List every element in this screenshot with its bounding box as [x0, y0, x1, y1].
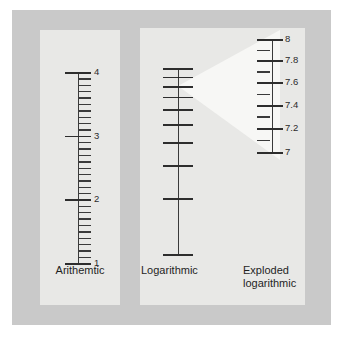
minor-tick	[78, 257, 91, 258]
major-tick	[163, 77, 193, 79]
tick-label: 7.6	[285, 77, 298, 87]
minor-tick	[78, 97, 91, 98]
minor-tick	[78, 148, 91, 149]
tick-label: 7.8	[285, 55, 298, 65]
minor-tick	[78, 218, 91, 219]
major-tick	[163, 142, 193, 144]
major-tick	[65, 72, 91, 74]
minor-tick	[78, 104, 91, 105]
tick-label: 7	[285, 147, 290, 157]
minor-tick	[257, 50, 270, 51]
major-tick	[163, 124, 193, 126]
major-tick	[163, 68, 193, 70]
minor-tick	[78, 238, 91, 239]
major-tick	[257, 105, 283, 107]
major-tick	[163, 165, 193, 167]
minor-tick	[78, 161, 91, 162]
minor-tick	[78, 231, 91, 232]
minor-tick	[257, 94, 270, 95]
minor-tick	[78, 155, 91, 156]
minor-tick	[78, 142, 91, 143]
minor-tick	[78, 250, 91, 251]
major-tick	[163, 86, 193, 88]
major-tick	[163, 198, 193, 200]
tick-label: 4	[94, 67, 99, 77]
minor-tick	[78, 129, 91, 130]
minor-tick	[78, 212, 91, 213]
minor-tick	[78, 206, 91, 207]
major-tick	[163, 109, 193, 111]
minor-tick	[257, 116, 270, 117]
minor-tick	[78, 78, 91, 79]
minor-tick	[78, 110, 91, 111]
minor-tick	[78, 244, 91, 245]
caption-arithmetic: Arithemtic	[40, 264, 120, 277]
major-tick	[257, 128, 283, 130]
minor-tick	[78, 180, 91, 181]
major-tick	[257, 82, 283, 84]
major-tick	[257, 152, 283, 154]
axis-line	[272, 39, 273, 152]
minor-tick	[257, 140, 270, 141]
major-tick	[65, 199, 91, 201]
minor-tick	[78, 225, 91, 226]
tick-label: 7.4	[285, 100, 298, 110]
tick-label: 2	[94, 194, 99, 204]
minor-tick	[78, 91, 91, 92]
minor-tick	[78, 193, 91, 194]
major-tick	[65, 136, 91, 138]
major-tick	[257, 39, 283, 41]
tick-label: 3	[94, 131, 99, 141]
tick-label: 8	[285, 34, 290, 44]
minor-tick	[78, 123, 91, 124]
tick-label: 7.2	[285, 123, 298, 133]
figure-canvas: 1234 12345678910 77.27.47.67.88 Arithemt…	[0, 0, 343, 346]
minor-tick	[78, 174, 91, 175]
minor-tick	[257, 71, 270, 72]
caption-exploded-logarithmic: Exploded logarithmic	[243, 264, 296, 290]
minor-tick	[78, 85, 91, 86]
major-tick	[163, 97, 193, 99]
minor-tick	[78, 168, 91, 169]
caption-logarithmic: Logarithmic	[141, 264, 198, 277]
minor-tick	[78, 117, 91, 118]
major-tick	[163, 254, 193, 256]
minor-tick	[78, 187, 91, 188]
major-tick	[257, 60, 283, 62]
